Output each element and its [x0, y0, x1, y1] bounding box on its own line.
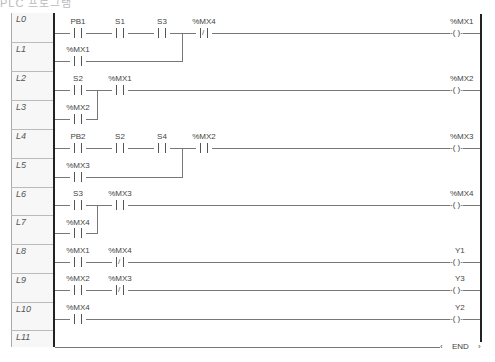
- contact-label: %MX1: [108, 74, 132, 83]
- end-label: END: [452, 342, 469, 351]
- row-separator: [11, 273, 53, 274]
- no-contact-icon[interactable]: [70, 285, 86, 295]
- row-label: L4: [11, 131, 53, 141]
- row-label: L0: [11, 14, 53, 24]
- nc-contact-icon[interactable]: /: [112, 285, 128, 295]
- contact-label: %MX4: [108, 246, 132, 255]
- row-label: L3: [11, 102, 53, 112]
- right-power-rail: [480, 14, 482, 342]
- no-contact-icon[interactable]: [70, 257, 86, 267]
- row-separator: [11, 330, 53, 331]
- no-contact-icon[interactable]: [112, 143, 128, 153]
- coil-icon[interactable]: -( )-: [450, 314, 463, 323]
- no-contact-icon[interactable]: [154, 28, 170, 38]
- row-label: L10: [11, 304, 53, 314]
- coil-icon[interactable]: -( )-: [450, 85, 463, 94]
- contact-label: S2: [73, 74, 83, 83]
- contact-label: S1: [115, 17, 125, 26]
- left-power-rail: [53, 13, 55, 347]
- contact-label: %MX2: [66, 103, 90, 112]
- row-separator: [11, 42, 53, 43]
- coil-label: Y2: [455, 303, 465, 312]
- contact-label: PB2: [70, 132, 85, 141]
- contact-label: %MX1: [66, 45, 90, 54]
- no-contact-icon[interactable]: [70, 85, 86, 95]
- branch-junction: [182, 148, 183, 178]
- coil-icon[interactable]: -( )-: [450, 143, 463, 152]
- contact-label: %MX2: [66, 274, 90, 283]
- no-contact-icon[interactable]: [70, 172, 86, 182]
- row-separator: [11, 100, 53, 101]
- branch-junction: [182, 33, 183, 62]
- row-separator: [11, 158, 53, 159]
- nc-contact-icon[interactable]: /: [112, 257, 128, 267]
- row-label: L6: [11, 189, 53, 199]
- no-contact-icon[interactable]: [70, 28, 86, 38]
- row-label: L7: [11, 217, 53, 227]
- contact-label: %MX3: [66, 161, 90, 170]
- coil-icon[interactable]: -( )-: [450, 200, 463, 209]
- row-number-column: [11, 13, 54, 347]
- contact-label: S3: [73, 189, 83, 198]
- rung-wire: [55, 319, 480, 320]
- no-contact-icon[interactable]: [70, 228, 86, 238]
- contact-label: S3: [157, 17, 167, 26]
- no-contact-icon[interactable]: [70, 143, 86, 153]
- contact-label: %MX2: [192, 132, 216, 141]
- row-separator: [11, 129, 53, 130]
- coil-label: %MX2: [450, 74, 474, 83]
- coil-label: %MX4: [450, 189, 474, 198]
- contact-label: PB1: [70, 17, 85, 26]
- branch-junction: [97, 205, 98, 234]
- coil-icon[interactable]: -( )-: [450, 28, 463, 37]
- branch-junction: [97, 90, 98, 120]
- no-contact-icon[interactable]: [112, 200, 128, 210]
- no-contact-icon[interactable]: [70, 114, 86, 124]
- nc-contact-icon[interactable]: /: [196, 28, 212, 38]
- row-label: L2: [11, 73, 53, 83]
- row-label: L8: [11, 246, 53, 256]
- row-separator: [11, 302, 53, 303]
- contact-label: %MX4: [192, 17, 216, 26]
- end-bracket-icon: ›: [478, 342, 481, 351]
- row-label: L9: [11, 275, 53, 285]
- coil-label: Y3: [455, 274, 465, 283]
- contact-label: %MX3: [108, 274, 132, 283]
- no-contact-icon[interactable]: [70, 56, 86, 66]
- contact-label: S2: [115, 132, 125, 141]
- end-rung-wire: [55, 347, 440, 348]
- row-label: L1: [11, 44, 53, 54]
- coil-label: Y1: [455, 246, 465, 255]
- no-contact-icon[interactable]: [112, 28, 128, 38]
- row-label: L5: [11, 160, 53, 170]
- coil-icon[interactable]: -( )-: [450, 285, 463, 294]
- no-contact-icon[interactable]: [154, 143, 170, 153]
- no-contact-icon[interactable]: [112, 85, 128, 95]
- end-instruction: ‹: [440, 342, 443, 351]
- page-title: PLC 프로그램: [0, 0, 72, 10]
- coil-label: %MX1: [450, 17, 474, 26]
- contact-label: %MX3: [108, 189, 132, 198]
- row-label: L11: [11, 332, 53, 342]
- contact-label: %MX1: [66, 246, 90, 255]
- row-separator: [11, 244, 53, 245]
- contact-label: %MX4: [66, 303, 90, 312]
- row-separator: [11, 215, 53, 216]
- row-separator: [11, 187, 53, 188]
- contact-label: %MX4: [66, 218, 90, 227]
- contact-label: S4: [157, 132, 167, 141]
- coil-icon[interactable]: -( )-: [450, 257, 463, 266]
- no-contact-icon[interactable]: [70, 200, 86, 210]
- coil-label: %MX3: [450, 132, 474, 141]
- no-contact-icon[interactable]: [70, 314, 86, 324]
- row-separator: [11, 71, 53, 72]
- no-contact-icon[interactable]: [196, 143, 212, 153]
